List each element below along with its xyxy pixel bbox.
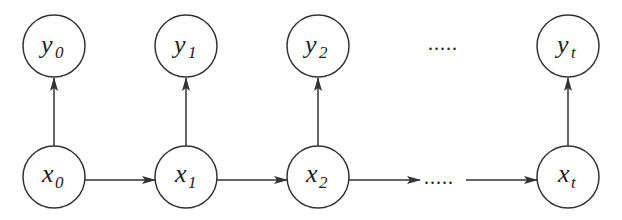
node-xt-base: x (557, 159, 570, 188)
node-y1: y 1 (155, 15, 217, 77)
node-y2-sub: 2 (319, 43, 328, 62)
node-y2-base: y (302, 30, 317, 59)
node-y0: y 0 (23, 15, 85, 77)
node-y1-base: y (171, 30, 186, 59)
node-x2-sub: 2 (319, 173, 328, 192)
node-y1-sub: 1 (188, 43, 197, 62)
node-y0-base: y (38, 30, 53, 59)
top-ellipsis: ..... (428, 32, 458, 54)
node-x2: x 2 (287, 146, 349, 208)
node-x1-sub: 1 (188, 173, 197, 192)
node-x1-base: x (174, 159, 187, 188)
node-x0-sub: 0 (55, 173, 64, 192)
node-x0: x 0 (23, 146, 85, 208)
node-yt-base: y (554, 30, 569, 59)
node-y2: y 2 (287, 15, 349, 77)
node-yt: y t (537, 15, 599, 77)
node-xt: x t (537, 146, 599, 208)
node-y0-sub: 0 (55, 43, 64, 62)
hmm-diagram: y 0 y 1 y 2 ..... y t x 0 x 1 x 2 ..... … (0, 0, 622, 220)
node-x0-base: x (41, 159, 54, 188)
node-x1: x 1 (155, 146, 217, 208)
bottom-ellipsis: ..... (424, 166, 454, 188)
node-x2-base: x (305, 159, 318, 188)
